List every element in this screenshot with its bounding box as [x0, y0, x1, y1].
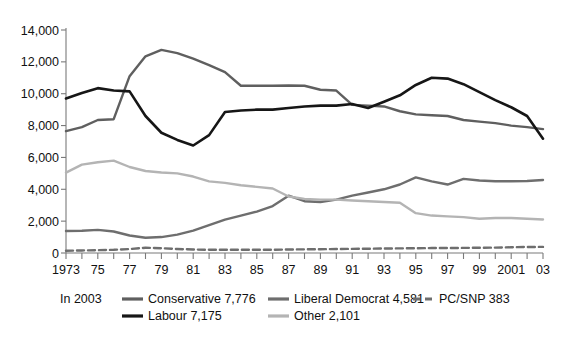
x-axis-tick-label: 77 — [123, 263, 137, 277]
y-axis-tick-label: 2,000 — [28, 215, 59, 229]
y-axis-tick-label: 14,000 — [21, 24, 59, 38]
x-axis-tick-label: 85 — [250, 263, 264, 277]
x-axis-tick-label: 95 — [409, 263, 423, 277]
series-line-conservative — [66, 50, 543, 131]
x-axis-tick-labels: 197375777981838587899193959799200103 — [52, 263, 550, 277]
x-axis-tick-label: 91 — [345, 263, 359, 277]
x-axis-tick-label: 89 — [313, 263, 327, 277]
y-axis-tick-label: 6,000 — [28, 151, 59, 165]
series-line-liberal-democrat — [66, 177, 543, 237]
x-axis-tick-label: 1973 — [52, 263, 80, 277]
legend-prefix-label: In 2003 — [60, 292, 102, 306]
y-axis-tick-label: 0 — [52, 247, 59, 261]
x-axis-tick-label: 75 — [91, 263, 105, 277]
x-axis-tick-label: 79 — [154, 263, 168, 277]
y-axis-tick-label: 12,000 — [21, 55, 59, 69]
x-axis-tick-marks — [66, 253, 543, 259]
x-axis-tick-label: 93 — [377, 263, 391, 277]
legend-label-pc-snp: PC/SNP 383 — [439, 292, 510, 306]
x-axis-tick-label: 81 — [186, 263, 200, 277]
series-lines — [66, 50, 543, 251]
line-chart: 02,0004,0006,0008,00010,00012,00014,000 … — [0, 0, 583, 340]
legend-label-other: Other 2,101 — [294, 309, 360, 323]
series-line-labour — [66, 78, 543, 146]
chart-legend: In 2003 Conservative 7,776Labour 7,175Li… — [60, 292, 510, 323]
x-axis-tick-label: 03 — [536, 263, 550, 277]
x-axis-tick-label: 83 — [218, 263, 232, 277]
x-axis-tick-label: 87 — [282, 263, 296, 277]
y-axis-tick-label: 10,000 — [21, 87, 59, 101]
x-axis-tick-label: 2001 — [497, 263, 525, 277]
y-axis-tick-label: 8,000 — [28, 119, 59, 133]
x-axis-tick-label: 99 — [472, 263, 486, 277]
y-axis-tick-label: 4,000 — [28, 183, 59, 197]
series-line-pc-snp — [66, 247, 543, 251]
series-line-other — [66, 161, 543, 220]
legend-label-liberal-democrat: Liberal Democrat 4,581 — [294, 292, 424, 306]
legend-label-labour: Labour 7,175 — [148, 309, 222, 323]
chart-container: 02,0004,0006,0008,00010,00012,00014,000 … — [0, 0, 583, 340]
x-axis-tick-label: 97 — [441, 263, 455, 277]
y-axis-tick-marks — [61, 30, 66, 253]
legend-label-conservative: Conservative 7,776 — [148, 292, 256, 306]
y-axis-tick-labels: 02,0004,0006,0008,00010,00012,00014,000 — [21, 24, 59, 261]
